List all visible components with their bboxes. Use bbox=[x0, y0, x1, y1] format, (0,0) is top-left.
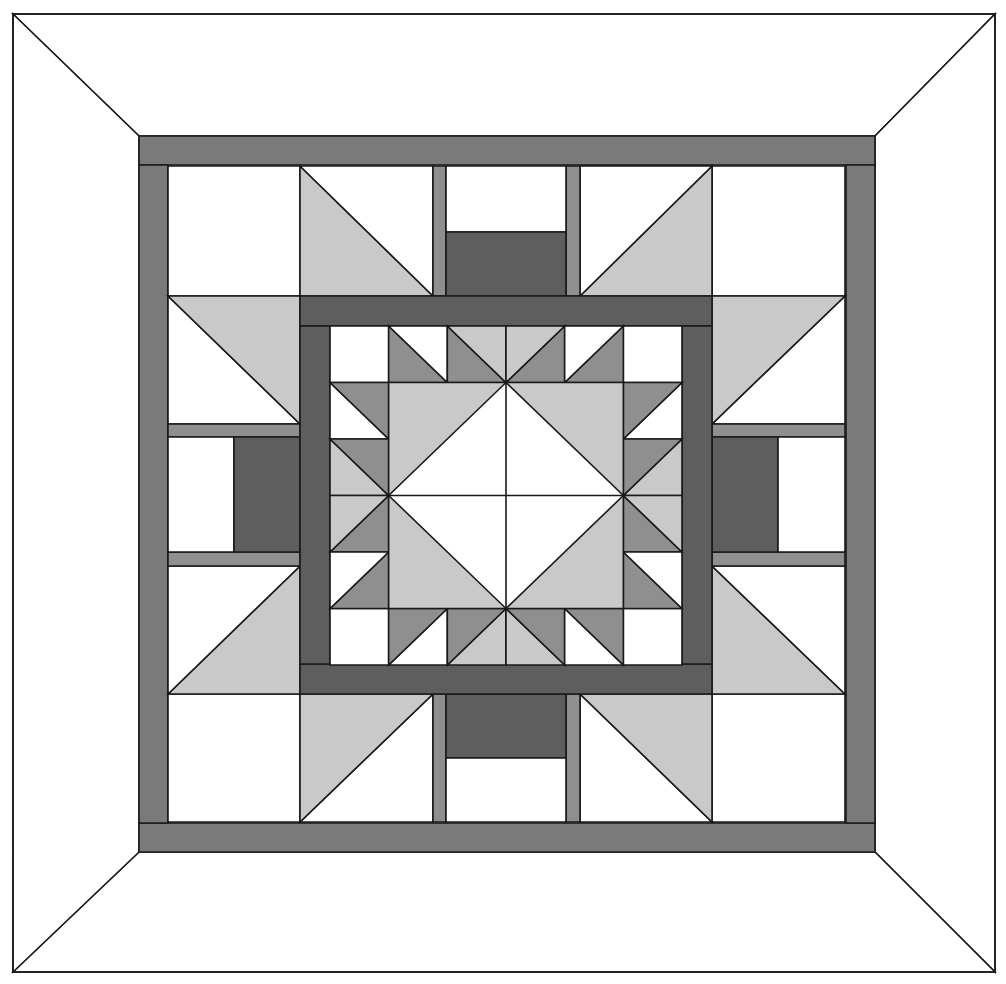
frame-right bbox=[846, 165, 875, 823]
center-frame-right bbox=[682, 326, 712, 664]
corner-square bbox=[712, 166, 845, 296]
sash-strip bbox=[168, 424, 300, 437]
quilt-diagram bbox=[0, 0, 1006, 984]
border-top bbox=[13, 14, 995, 136]
sash-strip bbox=[566, 694, 580, 822]
sash-strip bbox=[712, 424, 845, 437]
mid-block-dark bbox=[446, 694, 566, 758]
center-frame-top bbox=[300, 296, 712, 326]
medallion-corner bbox=[330, 609, 389, 666]
corner-square bbox=[712, 694, 845, 822]
corner-square bbox=[168, 166, 300, 296]
mid-block-light bbox=[446, 166, 566, 232]
mid-block-dark bbox=[446, 232, 566, 296]
frame-top bbox=[139, 136, 875, 165]
mid-block-light bbox=[168, 437, 234, 552]
medallion-corner bbox=[330, 326, 389, 383]
border-bottom bbox=[13, 852, 995, 972]
corner-square bbox=[168, 694, 300, 822]
frame-bottom bbox=[139, 823, 875, 852]
mid-block-dark bbox=[234, 437, 300, 552]
medallion-corner bbox=[623, 326, 682, 383]
frame-left bbox=[139, 165, 168, 823]
sash-strip bbox=[566, 166, 580, 296]
sash-strip bbox=[712, 552, 845, 566]
center-frame-bottom bbox=[300, 664, 712, 694]
sash-strip bbox=[433, 166, 446, 296]
mid-block-light bbox=[446, 758, 566, 822]
border-right bbox=[875, 14, 995, 972]
sash-strip bbox=[168, 552, 300, 566]
mid-block-light bbox=[778, 437, 845, 552]
medallion-corner bbox=[623, 609, 682, 666]
border-left bbox=[13, 14, 139, 972]
mid-block-dark bbox=[712, 437, 778, 552]
center-frame-left bbox=[300, 326, 330, 664]
sash-strip bbox=[433, 694, 446, 822]
